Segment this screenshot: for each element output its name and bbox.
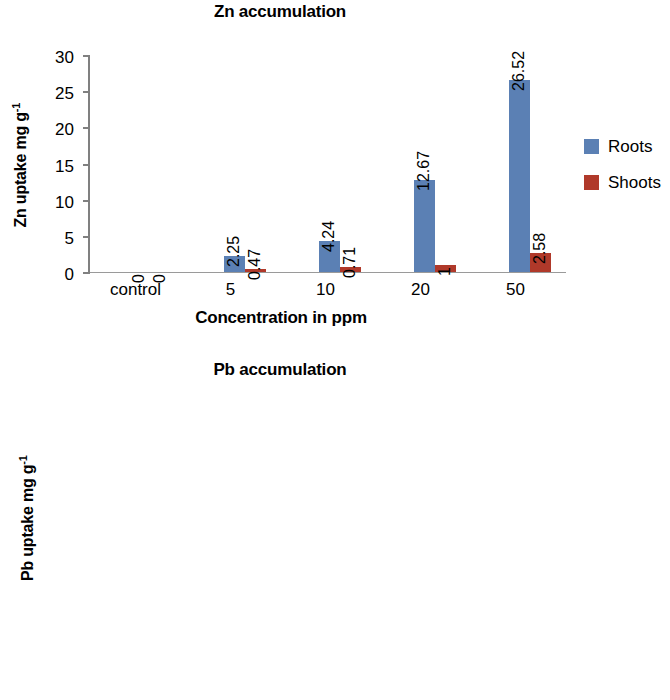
bar-value-label: 0.71 — [342, 247, 358, 278]
y-axis-label-pb: Pb uptake mg g-1 — [17, 428, 37, 608]
y-axis-label-pb-text: Pb uptake mg g — [19, 465, 36, 581]
y-axis-tick: 0 — [83, 272, 90, 274]
y-axis-tick-label: 20 — [55, 121, 74, 138]
y-axis-tick: 25 — [83, 91, 90, 93]
y-axis-tick-label: 15 — [55, 157, 74, 174]
x-axis-line-zn — [88, 272, 566, 273]
legend-label: Roots — [608, 138, 652, 155]
legend-item-shoots[interactable]: Shoots — [584, 164, 661, 200]
zn-accumulation-chart: Zn accumulation Zn uptake mg g-1 0510152… — [0, 0, 670, 350]
legend-label: Shoots — [608, 174, 661, 191]
y-axis-tick: 20 — [83, 127, 90, 129]
bar-value-label: 4.24 — [321, 221, 337, 252]
y-axis-tick: 30 — [83, 55, 90, 57]
x-axis-label-zn: Concentration in ppm — [0, 308, 562, 328]
y-axis-tick: 15 — [83, 164, 90, 166]
bar-value-label: 2.58 — [532, 233, 548, 264]
y-axis-tick-label: 25 — [55, 85, 74, 102]
y-axis-tick-label: 30 — [55, 49, 74, 66]
pb-accumulation-chart: Pb accumulation Pb uptake mg g-1 0246810… — [0, 350, 670, 700]
legend-swatch-icon — [584, 175, 599, 190]
x-axis-category-5: 5 — [226, 280, 235, 300]
y-axis-tick-label: 10 — [55, 193, 74, 210]
y-axis-tick-label: 5 — [65, 229, 74, 246]
y-axis-label-pb-exponent: -1 — [17, 455, 29, 464]
y-axis-tick: 10 — [83, 200, 90, 202]
x-axis-category-20: 20 — [411, 280, 430, 300]
bar-value-label: 26.52 — [511, 51, 527, 91]
chart-title-zn: Zn accumulation — [0, 2, 560, 22]
legend-zn: RootsShoots — [584, 128, 661, 200]
bar-value-label: 12.67 — [416, 151, 432, 191]
bar-roots — [509, 80, 530, 272]
bar-value-label: 0.47 — [247, 248, 263, 279]
y-axis-label-zn-text: Zn uptake mg g — [12, 112, 29, 227]
x-axis-category-50: 50 — [506, 280, 525, 300]
legend-swatch-icon — [584, 139, 599, 154]
chart-title-pb: Pb accumulation — [0, 360, 560, 380]
y-axis-tick: 5 — [83, 236, 90, 238]
bar-value-label: 2.25 — [226, 236, 242, 267]
plot-area-zn: 051015202530 002.250.474.240.7112.67126.… — [88, 55, 564, 272]
y-axis-tick-label: 0 — [65, 266, 74, 283]
legend-item-roots[interactable]: Roots — [584, 128, 661, 164]
y-axis-label-zn-exponent: -1 — [10, 103, 22, 112]
y-axis-label-zn: Zn uptake mg g-1 — [10, 75, 30, 255]
x-axis-category-10: 10 — [316, 280, 335, 300]
x-axis-category-control: control — [110, 280, 161, 300]
bar-roots — [414, 180, 435, 272]
bar-value-label: 1 — [437, 267, 453, 276]
